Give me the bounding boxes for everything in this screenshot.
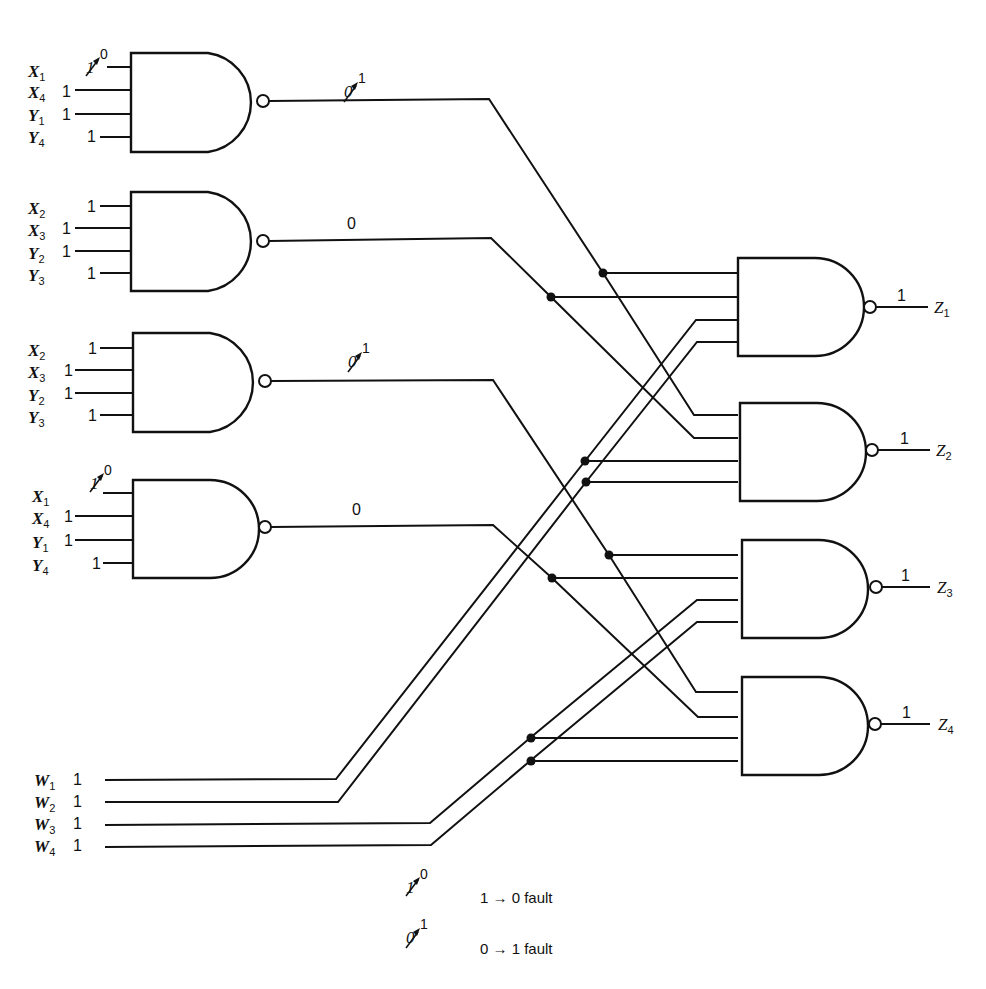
input-value: 1: [73, 772, 82, 788]
fault-0-to-1-icon: 1 0: [344, 340, 374, 374]
input-label-y3: Y3: [28, 267, 45, 287]
nand-gate-g2: [75, 192, 269, 291]
output-value-z2: 1: [900, 431, 909, 447]
input-label-w1: W1: [34, 772, 55, 792]
output-value-z4: 1: [902, 705, 911, 721]
input-value: 1: [88, 341, 97, 357]
junction-dot: [527, 734, 536, 743]
output-label-z4: Z4: [938, 716, 954, 736]
input-value: 1: [64, 386, 73, 402]
input-value: 1: [64, 533, 73, 549]
output-label-z1: Z1: [934, 299, 950, 319]
input-label-x3: X3: [28, 364, 45, 384]
output-label-z2: Z2: [936, 442, 952, 462]
output-value-z3: 1: [901, 568, 910, 584]
circuit-diagram: [0, 0, 986, 989]
input-label-x2: X2: [28, 200, 45, 220]
input-label-y3: Y3: [28, 409, 45, 429]
input-label-y4: Y4: [32, 557, 49, 577]
input-label-x3: X3: [28, 222, 45, 242]
output-value-z1: 1: [897, 288, 906, 304]
nand-gate-g3: [75, 333, 271, 432]
fault-1-to-0-icon: 0 1: [82, 46, 112, 80]
input-value: 1: [88, 408, 97, 424]
wire-g2: [269, 238, 738, 438]
input-value: 1: [73, 838, 82, 854]
input-label-y1: Y1: [28, 107, 45, 127]
nand-gate-z2: [740, 403, 930, 501]
legend-fault-1-to-0-icon: 0 1: [402, 866, 432, 900]
input-value: 1: [64, 509, 73, 525]
gate-output-value: 0: [347, 216, 356, 232]
junction-dot: [547, 293, 556, 302]
input-value: 1: [62, 244, 71, 260]
input-value: 1: [87, 266, 96, 282]
input-label-x2: X2: [28, 342, 45, 362]
output-label-z3: Z3: [937, 579, 953, 599]
wire-w3: [105, 600, 738, 825]
input-label-x1: X1: [28, 63, 45, 83]
nand-gate-z3: [742, 540, 930, 638]
input-label-x4: X4: [28, 84, 45, 104]
input-label-x1: X1: [32, 488, 49, 508]
gate-output-value: 0: [352, 502, 361, 518]
junction-dot: [599, 269, 608, 278]
input-label-x4: X4: [32, 510, 49, 530]
junction-dot: [605, 551, 614, 560]
input-value: 1: [87, 199, 96, 215]
input-value: 1: [62, 221, 71, 237]
input-label-w2: W2: [34, 794, 55, 814]
nand-gate-z1: [738, 258, 928, 356]
input-label-w4: W4: [34, 838, 55, 858]
input-value: 1: [64, 363, 73, 379]
junction-dot: [527, 757, 536, 766]
input-label-y4: Y4: [28, 129, 45, 149]
wire-w4: [105, 622, 738, 847]
input-value: 1: [62, 84, 71, 100]
input-label-w3: W3: [34, 816, 55, 836]
legend-fault-0-to-1-icon: 1 0: [402, 916, 432, 950]
junction-dot: [548, 574, 557, 583]
junction-dot: [582, 478, 591, 487]
nand-gate-z4: [742, 677, 930, 775]
input-value: 1: [73, 794, 82, 810]
input-value: 1: [73, 816, 82, 832]
legend-text: 1 → 0 fault: [480, 890, 553, 905]
legend-text: 0 → 1 fault: [480, 941, 553, 956]
wire-g4: [271, 525, 738, 717]
input-label-y2: Y2: [28, 387, 45, 407]
input-value: 1: [87, 129, 96, 145]
input-label-y2: Y2: [28, 245, 45, 265]
junction-dot: [581, 457, 590, 466]
fault-0-to-1-icon: 1 0: [340, 70, 370, 104]
input-value: 1: [62, 107, 71, 123]
wire-g1: [269, 99, 738, 415]
fault-1-to-0-icon: 0 1: [86, 462, 116, 496]
input-value: 1: [92, 556, 101, 572]
input-label-y1: Y1: [32, 534, 49, 554]
